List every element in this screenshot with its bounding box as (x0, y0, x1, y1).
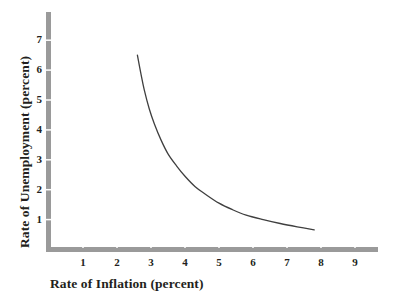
x-axis-tick (82, 243, 84, 248)
y-tick-label: 2 (28, 183, 42, 195)
x-axis-tick (116, 243, 118, 248)
x-axis-tick (218, 243, 220, 248)
x-axis-tick (252, 243, 254, 248)
x-axis-tick (286, 243, 288, 248)
data-series-group (137, 55, 314, 230)
x-tick-label: 4 (175, 256, 195, 268)
x-axis-tick (150, 243, 152, 248)
x-tick-label: 6 (243, 256, 263, 268)
y-tick-label: 6 (28, 63, 42, 75)
y-axis-tick (46, 189, 51, 191)
x-axis-title: Rate of Inflation (percent) (50, 276, 204, 292)
y-axis-tick (46, 99, 51, 101)
x-axis-tick (320, 243, 322, 248)
y-tick-label: 3 (28, 153, 42, 165)
chart-plot-area (0, 0, 396, 304)
x-tick-label: 3 (141, 256, 161, 268)
x-axis-line (46, 247, 378, 252)
data-series-line (137, 55, 314, 230)
x-axis-tick (354, 243, 356, 248)
y-axis-tick (46, 39, 51, 41)
x-tick-label: 2 (107, 256, 127, 268)
y-axis-tick (46, 219, 51, 221)
phillips-curve-figure: Rate of Inflation (percent) Rate of Unem… (0, 0, 396, 304)
y-tick-label: 4 (28, 123, 42, 135)
y-tick-label: 5 (28, 93, 42, 105)
y-axis-tick (46, 159, 51, 161)
y-axis-tick (46, 129, 51, 131)
y-axis-line (46, 12, 51, 252)
x-tick-label: 5 (209, 256, 229, 268)
y-tick-label: 1 (28, 213, 42, 225)
x-tick-label: 1 (73, 256, 93, 268)
y-tick-label: 7 (28, 33, 42, 45)
x-tick-label: 7 (277, 256, 297, 268)
x-axis-tick (184, 243, 186, 248)
axes-group (46, 12, 378, 252)
y-axis-tick (46, 69, 51, 71)
x-tick-label: 8 (311, 256, 331, 268)
x-tick-label: 9 (345, 256, 365, 268)
